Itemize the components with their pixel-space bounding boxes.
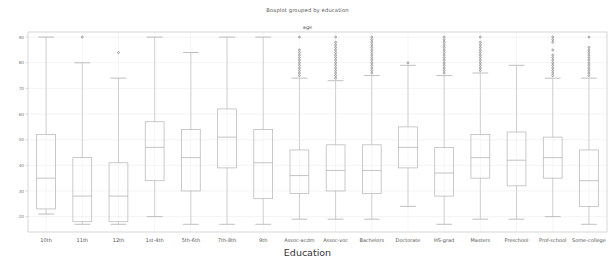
x-tick-label: 1st-4th bbox=[146, 237, 164, 243]
x-tick-label: 5th-6th bbox=[182, 237, 200, 243]
x-tick-label: Bachelors bbox=[359, 237, 384, 243]
x-tick-label: Masters bbox=[471, 237, 491, 243]
y-tick-label: 90 bbox=[19, 35, 25, 40]
y-tick-label: 50 bbox=[19, 137, 25, 142]
x-tick-label: Assoc-acdm bbox=[284, 237, 314, 243]
x-tick-label: 11th bbox=[77, 237, 89, 243]
x-tick-label: Prof-school bbox=[539, 237, 566, 243]
x-tick-label: 9th bbox=[259, 237, 267, 243]
y-tick-label: 20 bbox=[19, 214, 25, 219]
x-tick-label: Some-college bbox=[572, 237, 606, 244]
x-tick-label: HS-grad bbox=[434, 237, 454, 244]
boxplot-11th bbox=[73, 36, 92, 224]
y-tick-label: 60 bbox=[19, 112, 25, 117]
boxplot-masters bbox=[471, 36, 490, 219]
plot-canvas: 2030405060708090 10th11th12th1st-4th5th-… bbox=[0, 0, 615, 262]
boxplot-assoc-voc bbox=[326, 36, 345, 219]
x-axis-ticks: 10th11th12th1st-4th5th-6th7th-8th9thAsso… bbox=[40, 237, 606, 244]
x-tick-label: Assoc-voc bbox=[323, 237, 348, 243]
x-tick-label: 12th bbox=[113, 237, 125, 243]
x-tick-label: 7th-8th bbox=[218, 237, 236, 243]
y-axis-ticks: 2030405060708090 bbox=[19, 35, 28, 219]
y-tick-label: 30 bbox=[19, 189, 25, 194]
y-tick-label: 80 bbox=[19, 60, 25, 65]
y-tick-label: 40 bbox=[19, 163, 25, 168]
box-layer bbox=[37, 36, 599, 224]
x-tick-label: 10th bbox=[40, 237, 52, 243]
y-tick-label: 70 bbox=[19, 86, 25, 91]
boxplot-figure: Boxplot grouped by education age 2030405… bbox=[0, 0, 615, 262]
boxplot-hs-grad bbox=[435, 36, 454, 224]
x-axis-title: Education bbox=[0, 247, 615, 258]
x-tick-label: Doctorate bbox=[396, 237, 421, 243]
x-tick-label: Preschool bbox=[505, 237, 529, 243]
